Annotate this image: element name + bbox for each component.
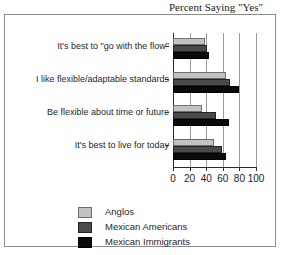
- legend-label: Anglos: [105, 206, 134, 217]
- bar: [173, 72, 226, 79]
- bar-row: [173, 153, 256, 160]
- bar-row: [173, 45, 256, 52]
- legend: Anglos Mexican Americans Mexican Immigra…: [78, 205, 238, 250]
- x-axis-tick: [173, 167, 174, 171]
- bar: [173, 139, 214, 146]
- category-label: It's best to "go with the flow": [57, 41, 169, 51]
- bar: [173, 146, 222, 153]
- bar: [173, 79, 230, 86]
- x-axis-tick: [239, 167, 240, 171]
- bar-row: [173, 139, 256, 146]
- legend-item: Mexican Americans: [78, 220, 238, 235]
- x-axis-tick-label: 100: [248, 173, 265, 184]
- bar-row: [173, 52, 256, 59]
- x-axis-tick: [256, 167, 257, 171]
- x-axis-tick-label: 80: [234, 173, 245, 184]
- x-axis-tick: [206, 167, 207, 171]
- bar: [173, 119, 229, 126]
- bar: [173, 45, 207, 52]
- x-axis-tick-label: 20: [184, 173, 195, 184]
- bar-row: [173, 105, 256, 112]
- bar-row: [173, 72, 256, 79]
- legend-item: Anglos: [78, 205, 238, 220]
- bar-row: [173, 86, 256, 93]
- bar-row: [173, 38, 256, 45]
- legend-item: Mexican Immigrants: [78, 235, 238, 250]
- bar: [173, 112, 216, 119]
- category-label: I like flexible/adaptable standards: [36, 74, 169, 84]
- bar-group: [173, 33, 256, 60]
- legend-swatch-icon: [78, 237, 92, 248]
- category-tick: [165, 46, 169, 47]
- category-label: It's best to live for today: [75, 140, 169, 150]
- bar-group: [173, 134, 256, 161]
- category-tick: [165, 112, 169, 113]
- category-label: Be flexible about time or future: [47, 107, 169, 117]
- category-axis-labels: It's best to "go with the flow" I like f…: [9, 33, 169, 167]
- x-axis-ticks: [173, 167, 257, 172]
- bar-row: [173, 119, 256, 126]
- bar: [173, 52, 209, 59]
- chart-title: Percent Saying "Yes": [152, 1, 280, 13]
- legend-label: Mexican Immigrants: [105, 236, 190, 247]
- category-tick: [165, 79, 169, 80]
- bar: [173, 38, 205, 45]
- bar-row: [173, 146, 256, 153]
- x-axis-tick-labels: 020406080100: [155, 173, 280, 186]
- x-axis-tick-label: 60: [217, 173, 228, 184]
- chart-frame: It's best to "go with the flow" I like f…: [4, 14, 276, 247]
- x-axis-tick: [190, 167, 191, 171]
- legend-label: Mexican Americans: [105, 221, 187, 232]
- bar: [173, 105, 202, 112]
- bar-row: [173, 79, 256, 86]
- x-axis-tick-label: 0: [170, 173, 176, 184]
- x-axis-tick-label: 40: [201, 173, 212, 184]
- plot-area: [173, 33, 256, 167]
- bar-group: [173, 67, 256, 94]
- bar: [173, 153, 226, 160]
- x-axis-tick: [223, 167, 224, 171]
- gridline: [256, 33, 257, 167]
- bar-row: [173, 112, 256, 119]
- bar-group: [173, 100, 256, 127]
- legend-swatch-icon: [78, 207, 92, 218]
- category-tick: [165, 145, 169, 146]
- bar: [173, 86, 239, 93]
- legend-swatch-icon: [78, 222, 92, 233]
